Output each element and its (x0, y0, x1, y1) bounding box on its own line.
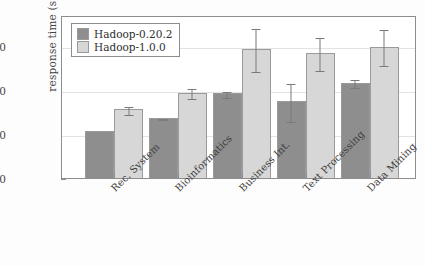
error-bar (370, 30, 399, 67)
y-axis-tick-mark (61, 179, 66, 180)
error-bar (306, 38, 335, 71)
error-bar-cap-bottom (287, 122, 296, 123)
legend-label-hadoop-1-0-0: Hadoop-1.0.0 (94, 41, 166, 53)
x-axis-tick-mark (178, 174, 179, 178)
plot-area: Hadoop-0.20.2 Hadoop-1.0.0 (61, 16, 416, 179)
error-bar-stem (256, 29, 257, 73)
error-bar-cap-top (316, 38, 325, 39)
error-bar-cap-top (223, 92, 232, 93)
error-bar-cap-top (380, 30, 389, 31)
x-axis-tick-mark (114, 174, 115, 178)
error-bar-cap-bottom (316, 71, 325, 72)
legend-label-hadoop-0-20-2: Hadoop-0.20.2 (94, 28, 172, 40)
error-bar (341, 80, 370, 89)
error-bar-cap-bottom (380, 66, 389, 67)
error-bar-cap-top (287, 84, 296, 85)
error-bar (277, 84, 306, 123)
error-bar (149, 119, 178, 121)
error-bar-cap-bottom (351, 88, 360, 89)
error-bar-cap-top (188, 89, 197, 90)
error-bar-cap-bottom (159, 120, 168, 121)
bar-hadoop-0-20-2-rec-system (85, 131, 114, 178)
legend-item: Hadoop-0.20.2 (77, 27, 172, 40)
chart-figure: response time (s) 050100150 Hadoop-0.20.… (0, 0, 425, 266)
error-bar-cap-bottom (188, 99, 197, 100)
x-axis-tick-mark (370, 174, 371, 178)
error-bar-stem (320, 38, 321, 71)
legend: Hadoop-0.20.2 Hadoop-1.0.0 (71, 23, 180, 57)
x-axis-tick-mark (242, 174, 243, 178)
x-axis-tick-mark (306, 174, 307, 178)
error-bar (114, 107, 143, 116)
error-bar-stem (384, 30, 385, 67)
legend-item: Hadoop-1.0.0 (77, 40, 172, 53)
y-axis-tick-label: 100 (0, 85, 6, 97)
y-axis-label: response time (s) (46, 0, 58, 124)
error-bar-stem (291, 84, 292, 123)
error-bar (242, 29, 271, 73)
y-axis-tick-label: 50 (0, 129, 6, 141)
legend-swatch-hadoop-1-0-0 (77, 41, 89, 53)
error-bar-cap-bottom (124, 115, 133, 116)
error-bar-cap-bottom (252, 72, 261, 73)
error-bar-cap-bottom (223, 98, 232, 99)
y-axis-tick-label: 0 (0, 173, 6, 185)
error-bar (213, 92, 242, 99)
legend-swatch-hadoop-0-20-2 (77, 28, 89, 40)
error-bar-cap-top (252, 29, 261, 30)
error-bar-cap-top (124, 107, 133, 108)
y-axis-tick-label: 150 (0, 41, 6, 53)
error-bar (178, 89, 207, 100)
error-bar-cap-top (351, 80, 360, 81)
